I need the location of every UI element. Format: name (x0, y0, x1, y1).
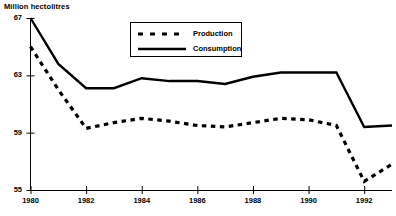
legend-swatch-dashed (138, 32, 186, 36)
x-axis-tick-label: 1986 (182, 197, 212, 205)
legend-item-consumption: Consumption (131, 42, 243, 55)
y-axis-tick-label: 59 (2, 129, 22, 137)
legend-item-production: Production (131, 27, 243, 40)
legend-label-production: Production (193, 29, 233, 38)
legend-label-consumption: Consumption (193, 44, 241, 53)
x-axis-tick-label: 1992 (349, 197, 379, 205)
y-axis-tick-label: 55 (2, 186, 22, 194)
x-axis-tick-label: 1984 (127, 197, 157, 205)
x-axis-tick-label: 1980 (16, 197, 46, 205)
chart-legend: Production Consumption (130, 22, 242, 57)
x-axis-tick-label: 1988 (238, 197, 268, 205)
legend-swatch-solid (138, 47, 186, 51)
x-axis-tick-label: 1982 (71, 197, 101, 205)
series-line-production (31, 47, 393, 182)
chart-container: Million hectolitres 67635955 19801982198… (0, 0, 396, 216)
y-axis-tick-label: 63 (2, 71, 22, 79)
y-axis-tick-label: 67 (2, 14, 22, 22)
x-axis-tick-label: 1990 (294, 197, 324, 205)
